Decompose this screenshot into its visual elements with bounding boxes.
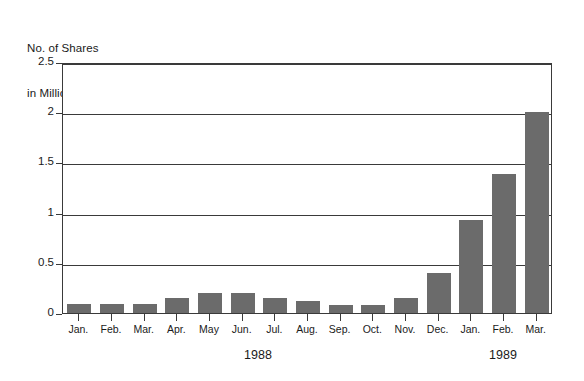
bar	[133, 304, 157, 313]
x-tick-mark	[372, 314, 373, 321]
y-tick-mark	[56, 214, 62, 215]
y-tick-mark	[56, 163, 62, 164]
y-tick-label: 0	[0, 306, 54, 318]
y-tick-label: 1	[0, 206, 54, 218]
year-label: 1988	[218, 348, 298, 362]
y-tick-mark	[56, 314, 62, 315]
x-tick-mark	[470, 314, 471, 321]
bars-layer	[63, 64, 551, 313]
bar	[492, 174, 516, 313]
y-tick-label: 1.5	[0, 155, 54, 167]
bar	[165, 298, 189, 313]
bar	[296, 301, 320, 313]
x-tick-mark	[111, 314, 112, 321]
x-axis-label: Aug.	[291, 323, 324, 335]
y-tick-mark	[56, 264, 62, 265]
x-tick-mark	[209, 314, 210, 321]
bar	[427, 273, 451, 313]
x-axis-label: May	[193, 323, 226, 335]
x-axis-label: Feb.	[95, 323, 128, 335]
y-axis-tick-labels: 00.511.522.5	[0, 0, 54, 381]
x-tick-mark	[340, 314, 341, 321]
bar	[525, 112, 549, 313]
x-axis-label: Jun.	[225, 323, 258, 335]
x-tick-mark	[78, 314, 79, 321]
plot-area	[62, 63, 552, 314]
x-axis-label: Jan.	[454, 323, 487, 335]
x-axis-label: Oct.	[356, 323, 389, 335]
year-label: 1989	[463, 348, 543, 362]
bar	[198, 293, 222, 313]
x-tick-mark	[405, 314, 406, 321]
bar	[67, 304, 91, 313]
x-axis-tick-marks	[62, 314, 552, 321]
year-group-labels: 19881989	[62, 348, 552, 368]
bar	[459, 220, 483, 313]
x-tick-mark	[536, 314, 537, 321]
x-axis-label: Jan.	[62, 323, 95, 335]
x-axis-label: Nov.	[389, 323, 422, 335]
bar	[329, 305, 353, 313]
y-tick-label: 2	[0, 105, 54, 117]
y-tick-label: 0.5	[0, 256, 54, 268]
bar	[231, 293, 255, 313]
x-tick-mark	[307, 314, 308, 321]
x-tick-mark	[503, 314, 504, 321]
x-tick-mark	[176, 314, 177, 321]
x-axis-label: Apr.	[160, 323, 193, 335]
x-tick-mark	[274, 314, 275, 321]
bar	[263, 298, 287, 313]
x-axis-label: Dec.	[421, 323, 454, 335]
y-tick-label: 2.5	[0, 55, 54, 67]
bar-chart-figure: No. of Shares in Millions 00.511.522.5 J…	[0, 0, 584, 381]
y-tick-mark	[56, 63, 62, 64]
y-tick-mark	[56, 113, 62, 114]
x-axis-label: Mar.	[127, 323, 160, 335]
x-axis-label: Feb.	[487, 323, 520, 335]
x-axis-label: Sep.	[323, 323, 356, 335]
bar	[394, 298, 418, 313]
bar	[100, 304, 124, 313]
x-axis-category-labels: Jan.Feb.Mar.Apr.MayJun.Jul.Aug.Sep.Oct.N…	[62, 323, 552, 341]
x-tick-mark	[144, 314, 145, 321]
x-tick-mark	[438, 314, 439, 321]
x-tick-mark	[242, 314, 243, 321]
x-axis-label: Jul.	[258, 323, 291, 335]
x-axis-label: Mar.	[519, 323, 552, 335]
bar	[361, 305, 385, 313]
